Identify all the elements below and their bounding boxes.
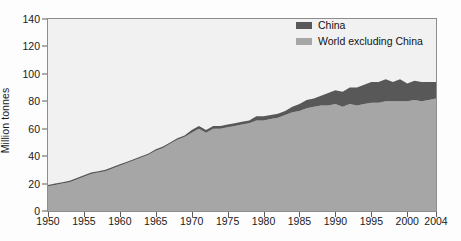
x-tick-mark xyxy=(120,212,121,217)
x-tick-mark xyxy=(264,212,265,217)
legend-item-world-excluding-china[interactable]: World excluding China xyxy=(296,35,423,48)
x-tick-mark xyxy=(299,212,300,217)
x-tick-mark xyxy=(371,212,372,217)
chart-container: Million tonnes 020406080100120140 195019… xyxy=(0,0,461,241)
area-world-excluding-china xyxy=(48,99,436,211)
legend-label-world-excluding-china: World excluding China xyxy=(318,35,423,48)
legend: China World excluding China xyxy=(296,19,423,51)
legend-swatch-world-excluding-china xyxy=(296,38,312,45)
x-tick-mark xyxy=(407,212,408,217)
x-tick-mark xyxy=(228,212,229,217)
x-tick-mark xyxy=(436,212,437,217)
x-tick-mark xyxy=(156,212,157,217)
x-tick-mark xyxy=(84,212,85,217)
legend-swatch-china xyxy=(296,22,312,29)
legend-label-china: China xyxy=(318,19,345,32)
legend-item-china[interactable]: China xyxy=(296,19,423,32)
x-tick-mark xyxy=(192,212,193,217)
x-tick-mark xyxy=(48,212,49,217)
x-tick-mark xyxy=(335,212,336,217)
